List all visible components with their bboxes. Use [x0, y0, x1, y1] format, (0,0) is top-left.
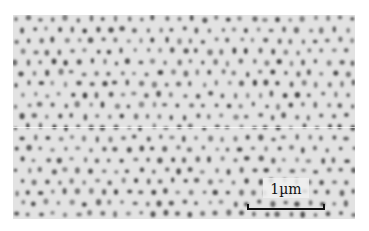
micrograph-image: 1µm	[13, 15, 355, 219]
scale-bar	[247, 204, 325, 210]
scale-bar-label: 1µm	[263, 179, 309, 199]
image-seam-line	[13, 127, 355, 128]
